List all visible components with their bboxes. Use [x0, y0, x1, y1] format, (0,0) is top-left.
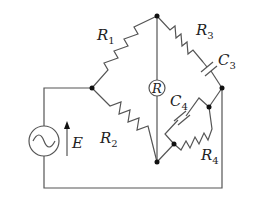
r3-label: R3: [195, 21, 214, 41]
arrow-head-icon: [64, 121, 70, 129]
node-bottom: [155, 160, 160, 165]
meter-label: R: [151, 81, 162, 96]
node-c4r4-upper: [207, 105, 212, 110]
c4-label: C4: [170, 92, 188, 112]
resistor-r1: R1: [92, 16, 157, 88]
node-left: [90, 86, 95, 91]
node-top: [155, 14, 160, 19]
resistor-r3: R3: [157, 16, 214, 62]
node-c4r4-lower: [172, 142, 177, 147]
c3-label: C3: [218, 51, 236, 71]
capacitor-c3: C3: [201, 51, 236, 88]
r4-label: R4: [200, 146, 219, 166]
r1-label: R1: [96, 26, 115, 46]
ac-source: E: [29, 121, 83, 156]
r2-label: R2: [99, 129, 118, 149]
sine-wave-icon: [33, 135, 55, 147]
node-right: [220, 86, 225, 91]
bridge-circuit-diagram: E R1 R2 R3 C3 R C4: [0, 0, 257, 205]
parallel-c4-r4: C4 R4: [157, 88, 222, 166]
source-label: E: [71, 134, 83, 152]
resistor-r2: R2: [92, 88, 157, 162]
